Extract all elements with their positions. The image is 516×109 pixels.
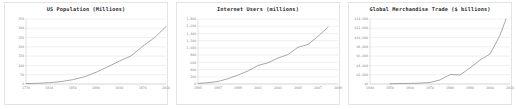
chart-plot-us-population: 0501001502002503003501770181018501890193… (0, 0, 172, 109)
x-axis-tick-label: 2010 (506, 86, 514, 90)
x-axis-tick-label: 1770 (22, 86, 30, 90)
y-axis-tick-label: $8,000 (356, 45, 368, 49)
chart-panel-internet-users: Internet Users (millions) 02004006008001… (172, 0, 344, 109)
y-axis-tick-label: $4,000 (356, 64, 368, 68)
y-axis-tick-label: $10,000 (354, 36, 368, 40)
y-axis-tick-label: $14,000 (354, 17, 368, 21)
x-axis-tick-label: 2005 (294, 86, 302, 90)
x-axis-tick-label: 1999 (234, 86, 242, 90)
charts-figure: US Population (Millions) 050100150200250… (0, 0, 516, 109)
data-series-line (390, 19, 506, 84)
x-axis-tick-label: 1930 (115, 86, 123, 90)
x-axis-tick-label: 1997 (214, 86, 222, 90)
chart-panel-global-merchandise-trade: Global Merchandise Trade ($ billions) $0… (344, 0, 516, 109)
x-axis-tick-label: 1890 (92, 86, 100, 90)
chart-panel-us-population: US Population (Millions) 050100150200250… (0, 0, 172, 109)
x-axis-tick-label: 2010 (162, 86, 170, 90)
y-axis-tick-label: 150 (18, 54, 24, 58)
y-axis-tick-label: $6,000 (356, 54, 368, 58)
y-axis-tick-label: $2,000 (356, 73, 368, 77)
chart-plot-internet-users: 02004006008001,0001,2001,4001,6001,80019… (172, 0, 344, 109)
x-axis-tick-label: 1850 (69, 86, 77, 90)
y-axis-tick-label: 800 (190, 53, 196, 57)
y-axis-tick-label: 1,600 (186, 24, 196, 28)
x-axis-tick-label: 1970 (139, 86, 147, 90)
y-axis-tick-label: 50 (20, 73, 24, 77)
y-axis-tick-label: 200 (18, 45, 24, 49)
x-axis-tick-label: 2009 (334, 86, 342, 90)
x-axis-tick-label: 1960 (406, 86, 414, 90)
y-axis-tick-label: 300 (18, 26, 24, 30)
x-axis-tick-label: 2003 (274, 86, 282, 90)
y-axis-tick-label: 1,000 (186, 46, 196, 50)
x-axis-tick-label: 1940 (366, 86, 374, 90)
x-axis-tick-label: 1990 (466, 86, 474, 90)
y-axis-tick-label: 1,200 (186, 39, 196, 43)
x-axis-tick-label: 2000 (486, 86, 494, 90)
y-axis-tick-label: $12,000 (354, 26, 368, 30)
x-axis-tick-label: 1995 (194, 86, 202, 90)
y-axis-tick-label: 1,800 (186, 17, 196, 21)
x-axis-tick-label: 1810 (45, 86, 53, 90)
x-axis-tick-label: 1970 (426, 86, 434, 90)
y-axis-tick-label: 400 (190, 68, 196, 72)
x-axis-tick-label: 1980 (446, 86, 454, 90)
y-axis-tick-label: 1,400 (186, 32, 196, 36)
data-series-line (26, 27, 166, 84)
y-axis-tick-label: 600 (190, 61, 196, 65)
chart-plot-global-merchandise-trade: $0$2,000$4,000$6,000$8,000$10,000$12,000… (344, 0, 516, 109)
x-axis-tick-label: 2001 (254, 86, 262, 90)
x-axis-tick-label: 2007 (314, 86, 322, 90)
y-axis-tick-label: 250 (18, 36, 24, 40)
y-axis-tick-label: 350 (18, 17, 24, 21)
x-axis-tick-label: 1950 (386, 86, 394, 90)
y-axis-tick-label: 200 (190, 75, 196, 79)
y-axis-tick-label: 100 (18, 64, 24, 68)
